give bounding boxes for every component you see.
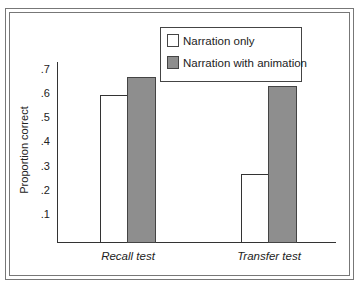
y-tick-0.6: .6	[30, 87, 50, 99]
y-axis-line	[57, 62, 58, 242]
y-tick-0.7: .7	[30, 63, 50, 75]
y-tick-0.5: .5	[30, 111, 50, 123]
legend-label: Narration only	[183, 35, 255, 47]
y-tick-0.3: .3	[30, 160, 50, 172]
y-tick-0.2: .2	[30, 184, 50, 196]
legend: Narration only Narration with animation	[160, 27, 302, 82]
x-category-recall: Recall test	[78, 250, 178, 262]
bar-transfer-narration-with-animation	[268, 86, 297, 243]
y-axis-label: Proportion correct	[18, 106, 30, 193]
legend-swatch-white-icon	[167, 34, 179, 47]
bar-recall-narration-with-animation	[127, 77, 156, 243]
bar-recall-narration-only	[100, 95, 128, 243]
x-category-transfer: Transfer test	[219, 250, 319, 262]
bar-transfer-narration-only	[241, 174, 269, 243]
legend-item-narration-only: Narration only	[167, 34, 255, 47]
y-tick-0.1: .1	[30, 208, 50, 220]
y-tick-0.4: .4	[30, 135, 50, 147]
legend-label: Narration with animation	[183, 57, 307, 69]
legend-swatch-gray-icon	[167, 56, 179, 69]
legend-item-narration-with-animation: Narration with animation	[167, 56, 307, 69]
